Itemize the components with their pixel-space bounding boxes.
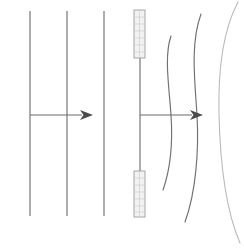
figure-root	[0, 0, 244, 250]
figure-background	[0, 0, 244, 250]
plate-upper	[134, 10, 145, 58]
field-diagram-svg	[0, 0, 244, 250]
plate-lower	[134, 171, 145, 217]
